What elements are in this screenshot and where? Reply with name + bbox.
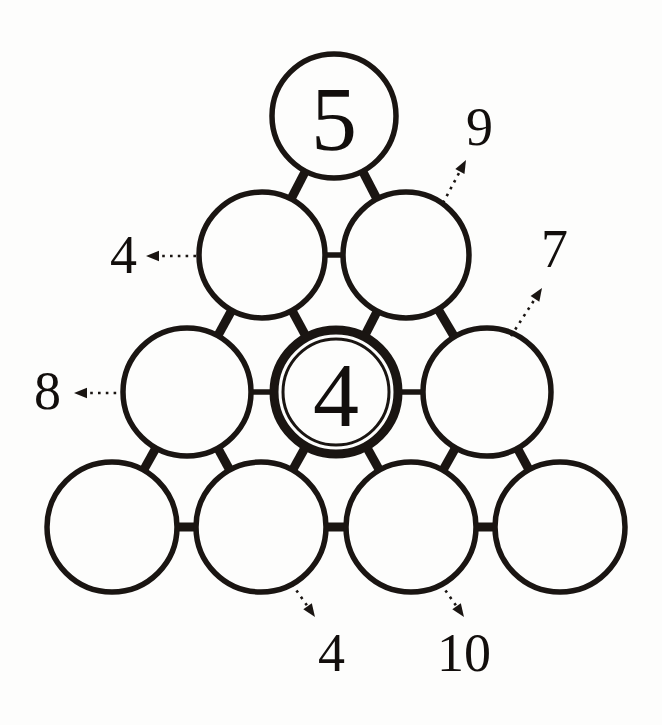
arrow-shaft (443, 171, 460, 203)
arrow-head (531, 288, 542, 302)
callout-10-arrow (441, 584, 464, 617)
pyramid-circle-r3c3[interactable] (423, 328, 551, 456)
diagram-canvas: 54 9478410 (0, 0, 662, 725)
node-link (290, 169, 306, 201)
pyramid-circle-r4c3[interactable] (346, 462, 476, 592)
pyramid-circle-r2c2[interactable] (343, 192, 469, 318)
pyramid-circle-r3c2[interactable]: 4 (274, 330, 398, 454)
callout-4-upper-left-label: 4 (110, 228, 137, 282)
circle-outline (346, 462, 476, 592)
callout-9-arrow (443, 160, 466, 203)
arrow-head (452, 603, 464, 617)
pyramid-circle-r2c1[interactable] (199, 192, 325, 318)
circle-outline (495, 462, 625, 592)
pyramid-circle-r4c4[interactable] (495, 462, 625, 592)
circle-outline (423, 328, 551, 456)
circle-outline (343, 192, 469, 318)
circle-value: 5 (311, 68, 357, 170)
arrow-shaft (511, 299, 535, 336)
circle-outline (199, 192, 325, 318)
callout-7-arrow (511, 288, 542, 336)
node-link (217, 309, 233, 338)
circle-outline (196, 462, 326, 592)
arrow-head (74, 388, 87, 398)
callout-4-upper-left-arrow (146, 251, 196, 261)
circle-outline (123, 328, 251, 456)
callout-8-label: 8 (34, 364, 61, 418)
pyramid-circle-r3c1[interactable] (123, 328, 251, 456)
callout-4-lower-label: 4 (318, 626, 345, 680)
pyramid-circle-r1c1[interactable]: 5 (272, 54, 396, 178)
arrow-head (146, 251, 159, 261)
callout-7-label: 7 (541, 222, 568, 276)
callout-10-label: 10 (437, 626, 491, 680)
pyramid-circle-r4c2[interactable] (196, 462, 326, 592)
node-link (362, 169, 378, 201)
arrow-shaft (441, 584, 457, 606)
callout-8-arrow (74, 388, 124, 398)
circle-value: 4 (313, 344, 359, 446)
circle-outline (47, 462, 177, 592)
arrow-head (455, 160, 466, 174)
arrow-head (303, 603, 315, 617)
arrow-shaft (292, 584, 308, 606)
pyramid-circle-r4c1[interactable] (47, 462, 177, 592)
node-layer: 54 (47, 54, 625, 592)
callout-9-label: 9 (466, 100, 493, 154)
node-link (437, 308, 455, 339)
circle-pyramid-figure: 54 (0, 0, 662, 725)
callout-4-lower-arrow (292, 584, 315, 617)
